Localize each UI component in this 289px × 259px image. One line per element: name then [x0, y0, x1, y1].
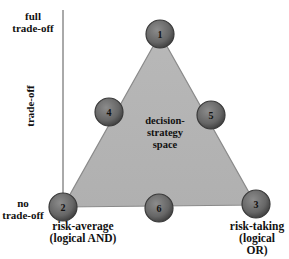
label-line: risk-average [38, 220, 128, 232]
node-6: 6 [145, 194, 173, 222]
label-line: (logical [226, 232, 288, 244]
label-line: (logical AND) [38, 232, 128, 244]
label-line: trade-off [12, 22, 54, 34]
label-line: decision- [135, 115, 195, 127]
node-4: 4 [95, 98, 123, 126]
svg-text:6: 6 [157, 203, 162, 214]
risk-taking-caption: risk-taking (logical OR) [226, 220, 288, 256]
svg-text:4: 4 [107, 107, 112, 118]
risk-average-caption: risk-average (logical AND) [38, 220, 128, 244]
node-1: 1 [146, 20, 174, 48]
label-line: space [135, 139, 195, 151]
svg-text:3: 3 [254, 199, 259, 210]
label-line: risk-taking [226, 220, 288, 232]
label-line: strategy [135, 127, 195, 139]
svg-text:5: 5 [209, 110, 214, 121]
svg-text:1: 1 [158, 29, 163, 40]
label-line: full [12, 10, 54, 22]
label-line: no [0, 197, 46, 209]
label-line: OR) [226, 244, 288, 256]
node-5: 5 [197, 101, 225, 129]
node-3: 3 [242, 190, 270, 218]
axis-label: trade-off [24, 76, 36, 136]
full-trade-off-label: full trade-off [12, 10, 54, 34]
node-2: 2 [49, 193, 77, 221]
svg-text:2: 2 [61, 202, 66, 213]
no-trade-off-label: no trade-off [0, 197, 46, 221]
decision-strategy-space-label: decision- strategy space [135, 115, 195, 151]
